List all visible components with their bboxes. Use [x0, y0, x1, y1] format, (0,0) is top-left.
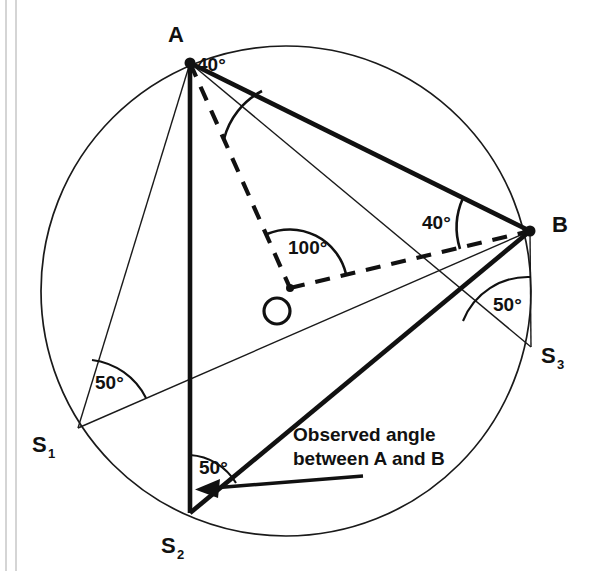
- arc-angle-b: [457, 198, 463, 249]
- label-point-s3-letter: S: [541, 343, 556, 368]
- vertex-dot-o: [286, 284, 294, 292]
- label-angle-s2: 50°: [199, 457, 228, 478]
- annotation-line-1: Observed angle: [293, 424, 436, 445]
- label-point-s3-subscript: 3: [557, 357, 564, 372]
- label-point-s3: S 3: [541, 343, 564, 372]
- chord-b-s3: [530, 231, 531, 347]
- circle-of-position-figure: A B S 1 S 2 S 3 40° 40° 100° 50° 50° 50°…: [0, 0, 591, 571]
- label-point-s2: S 2: [161, 533, 184, 562]
- diagram-canvas: A B S 1 S 2 S 3 40° 40° 100° 50° 50° 50°…: [0, 0, 591, 571]
- page-frame: [6, 0, 16, 571]
- label-angle-a: 40°: [197, 54, 226, 75]
- chord-b-s2: [190, 231, 530, 513]
- label-angle-s3: 50°: [493, 294, 522, 315]
- leader-arrowhead-icon: [195, 479, 220, 498]
- chord-a-b: [190, 63, 530, 231]
- chord-b-s1: [78, 231, 530, 428]
- vertex-dots: [185, 58, 536, 293]
- label-angle-b: 40°: [422, 212, 451, 233]
- label-point-s1-letter: S: [32, 432, 47, 457]
- vertex-dot-b: [525, 226, 536, 237]
- label-point-s1-subscript: 1: [48, 446, 55, 461]
- label-angle-o: 100°: [288, 237, 327, 258]
- annotation-line-2: between A and B: [293, 448, 445, 469]
- radius-a-o: [190, 63, 290, 288]
- center-o-symbol: [264, 298, 290, 324]
- label-point-s1: S 1: [32, 432, 55, 461]
- dashed-radii: [190, 63, 530, 288]
- label-point-s2-letter: S: [161, 533, 176, 558]
- label-angle-s1: 50°: [95, 372, 124, 393]
- label-point-b: B: [552, 212, 568, 237]
- label-point-a: A: [168, 22, 184, 47]
- vertex-dot-a: [185, 58, 196, 69]
- label-point-s2-subscript: 2: [177, 547, 184, 562]
- thick-chords: [190, 63, 530, 513]
- annotation-leader: [195, 476, 363, 498]
